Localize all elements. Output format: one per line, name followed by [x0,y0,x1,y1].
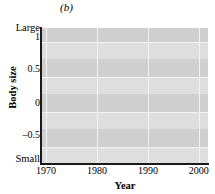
y-axis-labels: Large 1 0.5 0 –0.5 Small Body size [0,0,40,194]
horizontal-gridline [42,112,208,113]
vertical-gridline [97,28,98,164]
background-band [42,59,208,76]
background-band [42,147,208,164]
vertical-gridline [46,28,47,164]
x-tick-2000: 2000 [189,165,209,176]
background-band [42,28,208,42]
y-axis-line [40,27,42,165]
background-band [42,94,208,111]
background-band [42,129,208,146]
y-tick-neg-0-5: –0.5 [4,130,40,140]
background-band [42,77,208,94]
x-tick-1970: 1970 [36,165,56,176]
background-band [42,42,208,59]
x-tick-1990: 1990 [138,165,158,176]
figure-panel-b: (b) Large 1 0.5 0 –0.5 Small Body size 1… [0,0,215,194]
x-tick-1980: 1980 [87,165,107,176]
x-axis-title: Year [42,180,208,191]
y-axis-title: Body size [7,53,18,123]
horizontal-gridline [42,42,208,43]
x-axis-line [40,163,209,165]
background-band [42,112,208,129]
plot-area [42,28,208,164]
horizontal-gridline [42,77,208,78]
y-tick-1: 1 [4,32,40,42]
vertical-gridline [199,28,200,164]
panel-letter: (b) [60,1,73,13]
horizontal-gridline [42,147,208,148]
y-label-small: Small [4,153,40,164]
vertical-gridline [148,28,149,164]
